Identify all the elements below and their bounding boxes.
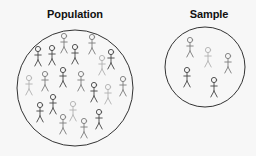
stick-figure-icon <box>184 67 190 87</box>
population-figures <box>26 33 126 138</box>
sample-group <box>165 27 245 107</box>
stick-figure-icon <box>81 118 87 138</box>
population-circle <box>17 30 133 146</box>
stick-figure-icon <box>61 33 67 53</box>
stick-figure-icon <box>49 45 55 65</box>
stick-figure-icon <box>26 75 32 95</box>
stick-figure-icon <box>42 71 48 91</box>
stick-figure-icon <box>91 82 97 102</box>
stick-figure-icon <box>99 55 105 75</box>
population-group <box>17 30 133 146</box>
population-sample-diagram <box>0 0 256 156</box>
stick-figure-icon <box>60 67 66 87</box>
stick-figure-icon <box>89 34 95 54</box>
stick-figure-icon <box>60 114 66 134</box>
stick-figure-icon <box>120 76 126 96</box>
stick-figure-icon <box>187 37 193 57</box>
stick-figure-icon <box>50 94 56 114</box>
stick-figure-icon <box>70 101 76 121</box>
stick-figure-icon <box>78 71 84 91</box>
stick-figure-icon <box>205 47 211 67</box>
stick-figure-icon <box>105 84 111 104</box>
stick-figure-icon <box>37 102 43 122</box>
stick-figure-icon <box>35 46 41 66</box>
stick-figure-icon <box>211 77 217 97</box>
sample-figures <box>184 37 231 97</box>
stick-figure-icon <box>96 109 102 129</box>
stick-figure-icon <box>108 49 114 69</box>
stick-figure-icon <box>72 44 78 64</box>
stick-figure-icon <box>225 53 231 73</box>
